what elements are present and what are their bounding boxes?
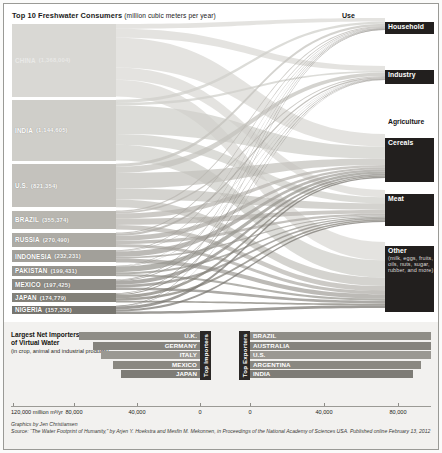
country-value: (355,374) bbox=[42, 217, 69, 223]
use-bar-cereals[interactable]: Cereals bbox=[385, 138, 434, 182]
exporter-label: ARGENTINA bbox=[253, 361, 291, 369]
country-value: (174,779) bbox=[40, 295, 67, 301]
country-bar-brazil[interactable]: BRAZIL(355,374) bbox=[12, 211, 116, 230]
country-bar-indonesia[interactable]: INDONESIA(232,231) bbox=[12, 250, 116, 262]
exporter-bar-brazil[interactable]: BRAZIL bbox=[250, 332, 431, 340]
top-importers-label: Top Importers bbox=[202, 334, 209, 377]
exporter-label: AUSTRALIA bbox=[253, 342, 290, 350]
importer-bar-mexico[interactable]: MEXICO bbox=[113, 361, 200, 369]
country-bar-pakistan[interactable]: PAKISTAN(199,431) bbox=[12, 266, 116, 277]
importer-bar-japan[interactable]: JAPAN bbox=[121, 370, 200, 378]
country-value: (1,368,004) bbox=[39, 57, 71, 63]
country-name: RUSSIA bbox=[15, 236, 40, 243]
country-value: (197,425) bbox=[44, 282, 71, 288]
sankey-panel: Top 10 Freshwater Consumers (million cub… bbox=[4, 4, 438, 322]
use-column: HouseholdIndustryAgricultureCerealsMeatO… bbox=[385, 8, 434, 322]
country-name: U.S. bbox=[15, 182, 28, 189]
country-value: (821,354) bbox=[31, 183, 58, 189]
importer-bar-italy[interactable]: ITALY bbox=[101, 351, 200, 359]
axis-tick bbox=[137, 403, 138, 406]
country-name: INDONESIA bbox=[15, 253, 51, 260]
exporter-bar-australia[interactable]: AUSTRALIA bbox=[250, 342, 431, 350]
country-name: INDIA bbox=[15, 127, 33, 134]
exporter-label: U.S. bbox=[253, 351, 265, 359]
axis-tick-label: 80,000 bbox=[389, 409, 406, 415]
country-name: JAPAN bbox=[15, 294, 37, 301]
importer-label: ITALY bbox=[180, 351, 197, 359]
country-bar-mexico[interactable]: MEXICO(197,425) bbox=[12, 279, 116, 289]
country-value: (157,336) bbox=[45, 307, 72, 313]
importer-bar-germany[interactable]: GERMANY bbox=[93, 342, 200, 350]
use-bar-label: Meat bbox=[388, 195, 404, 202]
virtual-water-panel: Largest Net Importers and Exporters of V… bbox=[4, 322, 438, 449]
sankey-title-units: (million cubic meters per year) bbox=[124, 12, 215, 19]
use-bar-meat[interactable]: Meat bbox=[385, 194, 434, 226]
exporter-bar-argentina[interactable]: ARGENTINA bbox=[250, 361, 421, 369]
country-name: CHINA bbox=[15, 57, 36, 64]
axis-tick bbox=[250, 403, 251, 406]
use-bar-label: Cereals bbox=[388, 139, 413, 146]
use-bar-industry[interactable]: Industry bbox=[385, 70, 434, 84]
use-bar-label: Other bbox=[388, 247, 407, 254]
top-exporters-label: Top Exporters bbox=[241, 334, 248, 377]
country-name: BRAZIL bbox=[15, 216, 39, 223]
axis-tick bbox=[13, 403, 14, 406]
importer-label: MEXICO bbox=[172, 361, 197, 369]
use-bar-other[interactable]: Other(milk, eggs, fruits, oils, nuts, su… bbox=[385, 246, 434, 312]
importer-label: JAPAN bbox=[176, 370, 197, 378]
country-value: (270,490) bbox=[43, 237, 70, 243]
axis-tick bbox=[398, 403, 399, 406]
credit-line-2: Source: “The Water Footprint of Humanity… bbox=[11, 428, 430, 434]
exporter-label: BRAZIL bbox=[253, 332, 276, 340]
exporter-bar-us[interactable]: U.S. bbox=[250, 351, 431, 359]
country-name: MEXICO bbox=[15, 281, 41, 288]
country-bar-us[interactable]: U.S.(821,354) bbox=[12, 164, 116, 208]
country-bar-china[interactable]: CHINA(1,368,004) bbox=[12, 24, 116, 97]
country-name: PAKISTAN bbox=[15, 267, 47, 274]
axis-tick-label: 40,000 bbox=[315, 409, 332, 415]
axis-tick-label: 0 bbox=[248, 409, 251, 415]
use-bar-note: (milk, eggs, fruits, oils, nuts, sugar, … bbox=[388, 255, 434, 274]
country-bar-india[interactable]: INDIA(1,144,605) bbox=[12, 100, 116, 161]
use-bar-label: Industry bbox=[388, 71, 416, 78]
axis-tick bbox=[74, 403, 75, 406]
axis-tick-label: 0 bbox=[198, 409, 201, 415]
country-value: (232,231) bbox=[54, 253, 81, 259]
infographic-root: Top 10 Freshwater Consumers (million cub… bbox=[0, 0, 442, 453]
credit-line-1: Graphics by Jen Christiansen bbox=[11, 421, 78, 427]
exporter-bar-india[interactable]: INDIA bbox=[250, 370, 413, 378]
top-exporters-strip: Top Exporters bbox=[239, 331, 250, 380]
sankey-title-text: Top 10 Freshwater Consumers bbox=[12, 11, 122, 20]
use-bar-label: Household bbox=[388, 23, 424, 30]
importer-label: U.K. bbox=[184, 332, 197, 340]
use-column-header: Use bbox=[342, 12, 388, 19]
use-bar-household[interactable]: Household bbox=[385, 22, 434, 34]
use-label-agriculture: Agriculture bbox=[385, 118, 434, 125]
importer-bar-uk[interactable]: U.K. bbox=[79, 332, 200, 340]
country-bar-nigeria[interactable]: NIGERIA(157,336) bbox=[12, 306, 116, 314]
sankey-title: Top 10 Freshwater Consumers (million cub… bbox=[12, 11, 216, 20]
importer-label: GERMANY bbox=[165, 342, 197, 350]
country-bar-japan[interactable]: JAPAN(174,779) bbox=[12, 293, 116, 302]
axis-tick-label: 120,000 million m³/yr bbox=[11, 409, 63, 415]
axis-tick-label: 80,000 bbox=[65, 409, 82, 415]
country-name: NIGERIA bbox=[15, 306, 42, 313]
axis-line bbox=[11, 406, 431, 407]
top-importers-strip: Top Importers bbox=[200, 331, 211, 380]
axis-tick bbox=[200, 403, 201, 406]
axis-tick-label: 40,000 bbox=[128, 409, 145, 415]
exporter-label: INDIA bbox=[253, 370, 270, 378]
axis-tick bbox=[324, 403, 325, 406]
country-value: (199,431) bbox=[50, 268, 77, 274]
country-bar-russia[interactable]: RUSSIA(270,490) bbox=[12, 233, 116, 247]
country-value: (1,144,605) bbox=[36, 127, 68, 133]
